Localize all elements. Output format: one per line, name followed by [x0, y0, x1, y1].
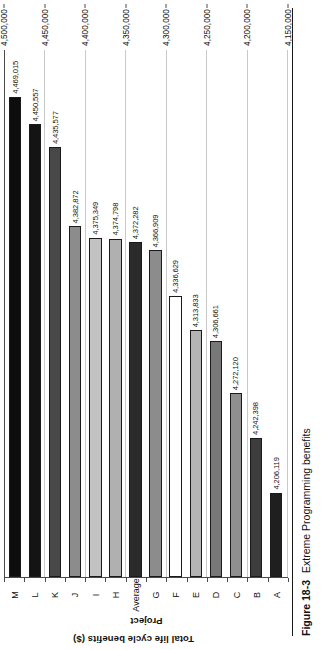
y-axis-tick-labels: 4,500,0004,450,0004,400,0004,350,0004,30…: [4, 4, 288, 50]
y-axis-tick-label: 4,400,000: [80, 9, 90, 46]
y-axis-tick-label: 4,350,000: [121, 9, 131, 46]
x-axis-tick-mark: [4, 578, 5, 582]
bar[interactable]: [49, 147, 61, 577]
bar[interactable]: [29, 124, 41, 577]
bar[interactable]: [169, 296, 181, 577]
bar-row: 4,435,577: [45, 50, 65, 577]
y-axis-tick-label: 4,200,000: [242, 9, 252, 46]
category-label-cell: Average: [126, 578, 146, 612]
category-label-cell: B: [247, 578, 267, 612]
y-axis-tick-label: 4,250,000: [202, 9, 212, 46]
bar-value-label: 4,272,120: [231, 357, 240, 393]
x-axis-tick-mark: [288, 578, 289, 582]
bar-row: 4,382,872: [65, 50, 85, 577]
category-label-cell: L: [25, 578, 45, 612]
caption-text: Extreme Programming benefits: [300, 428, 312, 580]
x-axis-tick-mark: [24, 578, 25, 582]
y-axis-tick-mark: [247, 4, 248, 8]
bar[interactable]: [109, 239, 121, 577]
y-axis-tick-label: 4,450,000: [40, 9, 50, 46]
bar[interactable]: [250, 438, 262, 577]
bar-value-label: 4,313,833: [191, 294, 200, 330]
bar-value-label: 4,382,872: [70, 190, 79, 226]
y-axis-tick-label: 4,300,000: [161, 9, 171, 46]
x-axis-tick-mark: [146, 578, 147, 582]
bar[interactable]: [69, 226, 81, 577]
category-label-cell: K: [45, 578, 65, 612]
y-axis-tick-mark: [44, 4, 45, 8]
category-label: Average: [131, 578, 141, 611]
x-axis-title-text: Project: [130, 617, 162, 628]
x-axis-tick-mark: [187, 578, 188, 582]
figure-container: Total life cycle benefits ($) Project ML…: [0, 0, 322, 650]
bar[interactable]: [230, 393, 242, 577]
x-axis-tick-mark: [247, 578, 248, 582]
category-label: C: [232, 592, 242, 599]
bar[interactable]: [129, 242, 141, 577]
plot-canvas: 4,469,0154,450,5574,435,5774,382,8724,37…: [4, 50, 288, 578]
bar-value-label: 4,372,282: [131, 206, 140, 242]
bar-value-label: 4,450,557: [30, 89, 39, 125]
bar[interactable]: [210, 341, 222, 577]
bar[interactable]: [149, 250, 161, 577]
gridline: [287, 50, 288, 577]
category-label: G: [151, 592, 161, 599]
plot-row: Project MLKJIHAverageGFEDCBA 4,469,0154,…: [4, 4, 288, 632]
y-axis-tick-mark: [288, 4, 289, 8]
x-axis-tick-mark: [166, 578, 167, 582]
bar-value-label: 4,336,629: [171, 260, 180, 296]
category-label-cell: J: [65, 578, 85, 612]
category-label: K: [50, 592, 60, 598]
y-axis-tick-mark: [4, 4, 5, 8]
category-label-cell: H: [106, 578, 126, 612]
bar[interactable]: [9, 97, 21, 577]
y-axis-tick-mark: [206, 4, 207, 8]
bar-row: 4,372,282: [125, 50, 145, 577]
x-axis-tick-mark: [207, 578, 208, 582]
bar-row: 4,313,833: [186, 50, 206, 577]
bar-row: 4,272,120: [226, 50, 246, 577]
bar-row: 4,366,909: [146, 50, 166, 577]
bar-row: 4,374,798: [105, 50, 125, 577]
bar-row: 4,306,661: [206, 50, 226, 577]
bar-row: 4,375,349: [85, 50, 105, 577]
bar-value-label: 4,469,015: [10, 61, 19, 97]
bar-value-label: 4,206,119: [271, 457, 280, 492]
category-label: J: [70, 593, 80, 598]
category-label-cell: A: [267, 578, 287, 612]
bar-row: 4,450,557: [25, 50, 45, 577]
plot-outer: Project MLKJIHAverageGFEDCBA 4,469,0154,…: [4, 4, 288, 632]
category-label-cell: C: [227, 578, 247, 612]
bar[interactable]: [270, 493, 282, 577]
bar-value-label: 4,375,349: [90, 202, 99, 238]
category-label: H: [111, 592, 121, 599]
y-axis-tick-mark: [166, 4, 167, 8]
category-label: L: [30, 593, 40, 598]
x-axis-tick-mark: [227, 578, 228, 582]
bar-value-label: 4,306,661: [211, 305, 220, 341]
category-label-stack: MLKJIHAverageGFEDCBA: [4, 578, 288, 612]
category-label: M: [10, 591, 20, 599]
x-axis-tick-labels: MLKJIHAverageGFEDCBA: [4, 578, 288, 612]
y-axis-tick-label: 4,150,000: [283, 9, 293, 46]
category-label: D: [211, 592, 221, 599]
category-label-cell: M: [5, 578, 25, 612]
x-axis-tick-mark: [85, 578, 86, 582]
category-label: F: [171, 592, 181, 598]
x-axis-tick-mark: [105, 578, 106, 582]
x-axis-tick-mark: [268, 578, 269, 582]
category-label-cell: F: [166, 578, 186, 612]
bar[interactable]: [89, 238, 101, 577]
bar-series: 4,469,0154,450,5574,435,5774,382,8724,37…: [4, 50, 287, 577]
bar[interactable]: [190, 330, 202, 577]
bar-row: 4,206,119: [266, 50, 286, 577]
y-axis-title: Total life cycle benefits ($): [0, 632, 266, 648]
bar-value-label: 4,242,398: [251, 402, 260, 438]
bar-row: 4,242,398: [246, 50, 266, 577]
x-axis-tick-mark: [126, 578, 127, 582]
category-label: E: [191, 592, 201, 598]
y-axis-tick-mark: [125, 4, 126, 8]
category-label-cell: D: [206, 578, 226, 612]
bar-value-label: 4,374,798: [110, 203, 119, 239]
category-label: A: [272, 592, 282, 598]
